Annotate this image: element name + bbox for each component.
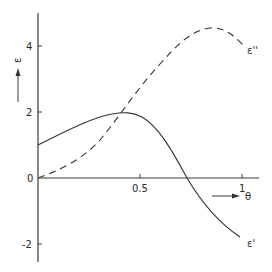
series-eps-prime-curve <box>38 113 240 237</box>
y-tick-label-0: 0 <box>27 173 33 184</box>
series-label-eps-prime: ε' <box>247 238 255 249</box>
y-axis-label: ε <box>12 58 23 63</box>
series-label-eps-double-prime: ε'' <box>247 45 258 56</box>
y-tick-label--2: -2 <box>22 239 32 250</box>
line-chart: 4 2 0 -2 0.5 1 ε θ ε'' ε' <box>0 0 272 272</box>
series-eps-double-prime-curve <box>38 28 243 178</box>
y-tick-label-4: 4 <box>26 41 32 52</box>
y-axis-arrowhead-icon <box>16 68 21 76</box>
y-tick-label-2: 2 <box>26 107 32 118</box>
x-axis-label: θ <box>245 191 251 202</box>
x-tick-label-0.5: 0.5 <box>132 183 148 194</box>
x-axis-arrowhead-icon <box>232 194 240 199</box>
